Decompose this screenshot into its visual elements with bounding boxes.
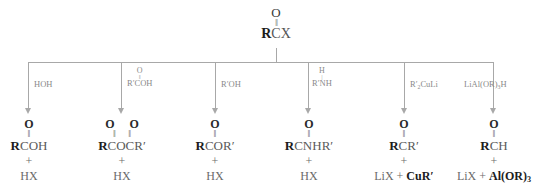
- reagent-label-hydrolysis: HOH: [34, 80, 52, 90]
- byproduct-bold-aldehyde: Al(OR)3: [489, 169, 531, 183]
- product-rest-amide: CNHR′: [294, 138, 333, 153]
- acyl-halide-rest: CX: [271, 26, 290, 41]
- product-formula-anhydride: RCOCR′: [86, 139, 158, 152]
- reagent-main-hydrolysis: HOH: [34, 79, 52, 89]
- product-rest-hydrolysis: COH: [20, 138, 47, 153]
- byproduct-anhydride: HX: [86, 170, 158, 182]
- product-ketone: O ‖ RCR′ + LiX + CuR′: [355, 118, 453, 182]
- product-rest-aldehyde: CH: [490, 138, 508, 153]
- stem-line: [276, 48, 277, 63]
- reaction-scheme-diagram: O ‖ RCX HOH O ‖ RCOH + HX O ‖ R′COH O O …: [0, 0, 553, 194]
- product-formula-ester: RCOR′: [181, 139, 249, 152]
- horizontal-bus-line: [28, 62, 494, 63]
- reagent-label-amide: H | R′NH: [312, 66, 332, 89]
- byproduct-hydrolysis: HX: [0, 170, 58, 182]
- product-ester: O ‖ RCOR′ + HX: [181, 118, 249, 182]
- product-amide: O ‖ RCNHR′ + HX: [272, 118, 346, 182]
- arrowhead-anhydride: [118, 108, 124, 114]
- reagent-label-aldehyde: LiAl(OR)3H: [464, 80, 507, 90]
- arrowhead-amide: [305, 108, 311, 114]
- reagent-label-ester: R′OH: [221, 80, 241, 90]
- product-r-ester: R: [196, 138, 205, 153]
- arrowhead-hydrolysis: [25, 108, 31, 114]
- product-rest-ester: COR′: [205, 138, 235, 153]
- byproduct-plain-anhydride: HX: [113, 169, 130, 183]
- product-bonds-ketone: ‖: [355, 130, 453, 138]
- product-r-ketone: R: [389, 138, 398, 153]
- product-rest-anhydride: COCR′: [108, 138, 146, 153]
- reagent-main-aldehyde: LiAl(OR)3H: [464, 79, 507, 89]
- product-r-aldehyde: R: [480, 138, 489, 153]
- byproduct-plain-ester: HX: [206, 169, 223, 183]
- reagent-label-ketone: R′2CuLi: [410, 80, 438, 90]
- product-aldehyde: O ‖ RCH + LiX + Al(OR)3: [444, 118, 544, 184]
- product-bonds-ester: ‖: [181, 130, 249, 138]
- product-rest-ketone: CR′: [399, 138, 419, 153]
- r-group-label: R: [261, 26, 271, 41]
- byproduct-plain-hydrolysis: HX: [20, 169, 37, 183]
- product-bonds-amide: ‖: [272, 130, 346, 138]
- byproduct-plain-ketone: LiX +: [374, 169, 406, 183]
- byproduct-aldehyde: LiX + Al(OR)3: [444, 170, 544, 184]
- starting-material-formula: RCX: [236, 27, 316, 41]
- arrowhead-ketone: [401, 108, 407, 114]
- byproduct-plain-aldehyde: LiX +: [457, 169, 489, 183]
- byproduct-amide: HX: [272, 170, 346, 182]
- product-plus-amide: +: [272, 155, 346, 167]
- product-formula-amide: RCNHR′: [272, 139, 346, 152]
- byproduct-bold-ketone: CuR′: [406, 169, 433, 183]
- product-anhydride: O O ‖ ‖ RCOCR′ + HX: [86, 118, 158, 182]
- branch-line-ketone: [404, 62, 405, 110]
- branch-line-anhydride: [121, 62, 122, 110]
- reagent-main-anhydride: R′COH: [127, 78, 152, 88]
- product-plus-hydrolysis: +: [0, 155, 58, 167]
- product-formula-ketone: RCR′: [355, 139, 453, 152]
- byproduct-ester: HX: [181, 170, 249, 182]
- product-hydrolysis: O ‖ RCOH + HX: [0, 118, 58, 182]
- product-plus-anhydride: +: [86, 155, 158, 167]
- product-formula-aldehyde: RCH: [444, 139, 544, 152]
- starting-material: O ‖ RCX: [236, 6, 316, 41]
- branch-line-amide: [308, 62, 309, 110]
- branch-line-ester: [215, 62, 216, 110]
- branch-line-hydrolysis: [28, 62, 29, 110]
- reagent-main-ketone: R′2CuLi: [410, 79, 438, 89]
- product-plus-ketone: +: [355, 155, 453, 167]
- product-bonds-aldehyde: ‖: [444, 130, 544, 138]
- product-r-hydrolysis: R: [11, 138, 20, 153]
- arrowhead-ester: [212, 108, 218, 114]
- product-plus-ester: +: [181, 155, 249, 167]
- reagent-label-anhydride: O ‖ R′COH: [127, 66, 152, 89]
- byproduct-ketone: LiX + CuR′: [355, 170, 453, 182]
- product-r-amide: R: [285, 138, 294, 153]
- byproduct-plain-amide: HX: [300, 169, 317, 183]
- arrowhead-aldehyde: [490, 108, 496, 114]
- reagent-main-ester: R′OH: [221, 79, 241, 89]
- product-plus-aldehyde: +: [444, 155, 544, 167]
- reagent-main-amide: R′NH: [312, 78, 332, 88]
- product-formula-hydrolysis: RCOH: [0, 139, 58, 152]
- product-bonds-hydrolysis: ‖: [0, 130, 58, 138]
- product-bonds-anhydride: ‖ ‖: [86, 130, 158, 138]
- product-r-anhydride: R: [98, 138, 107, 153]
